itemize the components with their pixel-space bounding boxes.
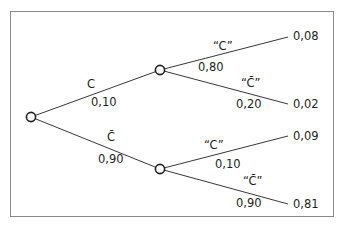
edge-root-c: [31, 70, 160, 117]
branch-c-prob: 0,10: [91, 96, 117, 108]
leaf-joint-cbar-testc: 0,09: [293, 130, 319, 142]
leaf-joint-c-testc: 0,08: [293, 30, 319, 42]
branch-cbar-testc-prob: 0,10: [215, 158, 241, 170]
branch-cbar-testcbar-event: “C̄”: [243, 175, 263, 187]
branch-c-testcbar-prob: 0,20: [236, 98, 262, 110]
node-cbar: [155, 164, 164, 173]
tree-edges: [0, 0, 340, 235]
leaf-joint-cbar-testcbar: 0,81: [293, 198, 319, 210]
leaf-joint-c-testcbar: 0,02: [293, 98, 319, 110]
branch-c-event: C: [87, 78, 95, 90]
edge-root-cbar: [31, 117, 160, 169]
branch-c-testc-event: “C”: [213, 40, 233, 52]
branch-cbar-testc-event: “C”: [204, 139, 224, 151]
branch-c-testcbar-event: “C̄”: [241, 77, 261, 89]
branch-cbar-testcbar-prob: 0,90: [236, 197, 262, 209]
branch-cbar-event: C̄: [107, 131, 115, 143]
root-node: [26, 112, 35, 121]
edge-c-testcbar: [160, 70, 288, 104]
branch-cbar-prob: 0,90: [98, 153, 124, 165]
node-c: [155, 65, 164, 74]
branch-c-testc-prob: 0,80: [198, 61, 224, 73]
edge-cbar-testcbar: [160, 169, 288, 204]
